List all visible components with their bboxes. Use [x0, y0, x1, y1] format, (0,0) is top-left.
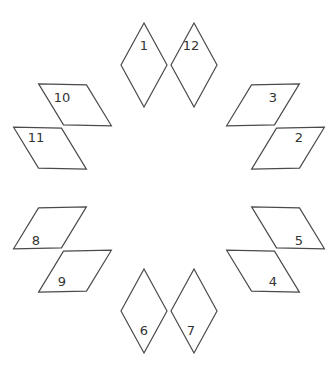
rhombus-10 [39, 84, 112, 126]
rhombus-label-3: 3 [269, 90, 277, 105]
rhombus-8 [14, 207, 87, 249]
rhombus-label-4: 4 [269, 274, 277, 289]
rhombus-label-12: 12 [183, 38, 200, 53]
rhombus-label-11: 11 [28, 130, 45, 145]
rhombus-label-6: 6 [140, 323, 148, 338]
rhombus-6 [121, 269, 167, 353]
rhombus-12 [171, 23, 217, 107]
rhombus-7 [171, 269, 217, 353]
rhombus-3 [227, 84, 300, 126]
rhombus-star-diagram: 123456789101112 [0, 0, 336, 375]
rhombus-label-1: 1 [140, 38, 148, 53]
rhombus-2 [252, 127, 325, 169]
rhombus-11 [14, 127, 87, 169]
rhombus-5 [252, 207, 325, 249]
rhombus-9 [39, 250, 112, 292]
rhombus-label-7: 7 [187, 323, 195, 338]
rhombus-label-2: 2 [295, 130, 303, 145]
rhombus-label-9: 9 [58, 274, 66, 289]
rhombus-label-8: 8 [32, 233, 40, 248]
labels-group: 123456789101112 [28, 38, 303, 338]
rhombi-group [14, 23, 325, 353]
rhombus-label-10: 10 [54, 90, 71, 105]
rhombus-1 [121, 23, 167, 107]
rhombus-4 [227, 250, 300, 292]
rhombus-label-5: 5 [295, 233, 303, 248]
